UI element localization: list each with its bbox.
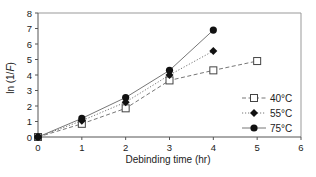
x-tick-label: 5 bbox=[255, 142, 260, 153]
series-40c bbox=[38, 61, 257, 137]
legend-label: 55°C bbox=[270, 108, 292, 119]
legend-label: 40°C bbox=[270, 93, 292, 104]
data-point bbox=[166, 67, 173, 74]
y-axis-label: ln (1/F) bbox=[5, 62, 16, 94]
series-line bbox=[38, 30, 213, 137]
x-tick-label: 0 bbox=[35, 142, 40, 153]
data-point bbox=[254, 58, 261, 65]
data-point bbox=[34, 133, 41, 140]
x-tick-label: 6 bbox=[298, 142, 303, 153]
legend-item-75c: 75°C bbox=[242, 123, 292, 134]
y-tick-label: 5 bbox=[27, 54, 32, 65]
y-tick-label: 6 bbox=[27, 39, 32, 50]
series-markers bbox=[34, 26, 217, 140]
y-axis-label-suffix: ) bbox=[5, 62, 16, 65]
legend-marker bbox=[250, 124, 257, 131]
y-axis-label-prefix: ln (1/ bbox=[5, 71, 16, 93]
series-75c bbox=[38, 30, 213, 137]
x-tick-label: 2 bbox=[123, 142, 128, 153]
x-axis: 0123456 bbox=[35, 137, 303, 153]
data-point bbox=[209, 47, 217, 55]
legend-marker bbox=[250, 109, 258, 117]
y-tick-label: 1 bbox=[27, 116, 32, 127]
y-tick-label: 7 bbox=[27, 23, 32, 34]
data-point bbox=[210, 26, 217, 33]
legend-marker bbox=[251, 95, 258, 102]
data-point bbox=[122, 94, 129, 101]
data-point bbox=[78, 115, 85, 122]
legend-label: 75°C bbox=[270, 123, 292, 134]
legend-item-40c: 40°C bbox=[242, 93, 292, 104]
y-axis: 012345678 bbox=[27, 8, 38, 143]
line-chart: 012345678 0123456 40°C55°C75°C Debinding… bbox=[0, 0, 316, 177]
y-tick-label: 3 bbox=[27, 85, 32, 96]
series-markers bbox=[35, 58, 261, 141]
y-tick-label: 4 bbox=[27, 70, 32, 81]
data-series bbox=[34, 26, 261, 141]
series-line bbox=[38, 61, 257, 137]
x-tick-label: 3 bbox=[167, 142, 172, 153]
y-tick-label: 8 bbox=[27, 8, 32, 19]
x-axis-label: Debinding time (hr) bbox=[125, 154, 210, 165]
legend-item-55c: 55°C bbox=[242, 108, 292, 119]
data-point bbox=[210, 67, 217, 74]
y-tick-label: 0 bbox=[27, 132, 32, 143]
legend: 40°C55°C75°C bbox=[242, 93, 292, 134]
x-tick-label: 1 bbox=[79, 142, 84, 153]
x-tick-label: 4 bbox=[211, 142, 216, 153]
y-tick-label: 2 bbox=[27, 101, 32, 112]
